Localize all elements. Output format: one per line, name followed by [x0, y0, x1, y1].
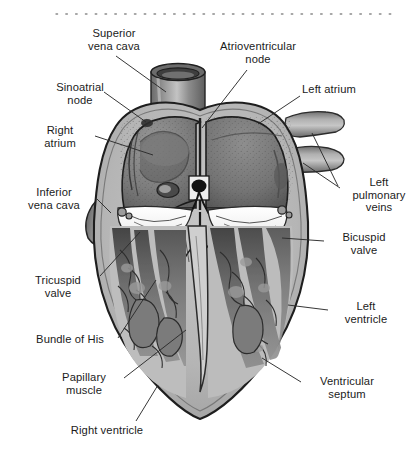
- label-bicuspid-valve: Bicuspid valve: [326, 231, 402, 256]
- label-right-ventricle: Right ventricle: [55, 424, 159, 437]
- label-left-atrium: Left atrium: [302, 83, 394, 96]
- label-superior-vena-cava: Superior vena cava: [62, 27, 166, 52]
- label-sinoatrial-node: Sinoatrial node: [38, 81, 122, 106]
- label-left-ventricle: Left ventricle: [330, 300, 402, 325]
- leader-right-ventricle: [136, 385, 158, 421]
- left-atrium-chamber: [200, 112, 296, 212]
- label-bundle-of-his: Bundle of His: [21, 333, 119, 346]
- leader-ventricular-septum: [262, 358, 301, 382]
- label-right-atrium: Right atrium: [27, 124, 93, 149]
- label-atrioventricular-node: Atrioventricular node: [200, 40, 316, 65]
- left-ventricle-chamber: [208, 226, 293, 398]
- label-tricuspid-valve: Tricuspid valve: [18, 274, 98, 299]
- papillary-muscle-left: [233, 305, 263, 353]
- label-inferior-vena-cava: Inferior vena cava: [10, 186, 98, 211]
- left-pulmonary-vein-upper: [284, 112, 344, 137]
- label-ventricular-septum: Ventricular septum: [303, 375, 391, 400]
- label-left-pulmonary-veins: Left pulmonary veins: [340, 176, 410, 214]
- label-papillary-muscle: Papillary muscle: [45, 371, 123, 396]
